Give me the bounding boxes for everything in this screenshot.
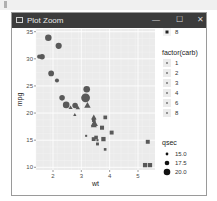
legend-key-square xyxy=(166,31,169,34)
legend-key-size xyxy=(166,153,169,156)
x-axis-title: wt xyxy=(91,180,99,187)
data-point-square xyxy=(148,163,152,167)
legend-label-carb: 8 xyxy=(175,110,179,116)
data-point-square xyxy=(103,116,107,120)
data-point-square xyxy=(96,139,98,141)
data-point-circle xyxy=(56,43,62,49)
legend-title-qsec: qsec xyxy=(162,139,177,147)
legend-key-dot xyxy=(166,102,168,104)
legend-key-dot xyxy=(166,92,168,94)
y-axis-title: mpg xyxy=(16,93,24,107)
legend-label-carb: 2 xyxy=(175,70,179,76)
x-tick-label: 2 xyxy=(51,173,55,179)
data-point-square xyxy=(85,135,87,137)
legend-label-carb: 3 xyxy=(175,80,179,86)
data-point-circle xyxy=(59,95,65,101)
legend-key-dot xyxy=(166,112,168,114)
legend-label-carb: 1 xyxy=(175,60,179,66)
legend-label-qsec: 15.0 xyxy=(175,151,187,157)
scatter-chart: 2345101520253035 wt mpg 8factor(carb)123… xyxy=(0,0,217,201)
y-tick-label: 10 xyxy=(26,164,33,170)
legend-label-carb: 6 xyxy=(175,100,179,106)
data-point-circle xyxy=(63,102,70,109)
y-tick-label: 35 xyxy=(26,29,33,35)
y-tick-label: 15 xyxy=(26,137,33,143)
data-point-square xyxy=(100,126,104,130)
data-point-square xyxy=(96,143,99,146)
legend-label-carb: 4 xyxy=(175,90,179,96)
data-point-square xyxy=(110,131,114,135)
data-point-circle xyxy=(55,78,59,82)
y-tick-label: 20 xyxy=(26,110,33,116)
data-point-square xyxy=(104,148,107,151)
x-tick-label: 4 xyxy=(108,173,112,179)
legend-title-carb: factor(carb) xyxy=(162,49,198,57)
data-point-circle xyxy=(48,71,54,77)
legend-key-dot xyxy=(166,72,168,74)
y-tick-label: 25 xyxy=(26,83,33,89)
y-tick-label: 30 xyxy=(26,56,33,62)
data-point-circle xyxy=(72,103,78,109)
data-point-circle xyxy=(81,93,90,102)
legend-key-size xyxy=(165,161,170,166)
x-tick-label: 3 xyxy=(80,173,84,179)
legend-key-dot xyxy=(166,62,168,64)
data-point-square xyxy=(143,163,147,167)
data-point-square xyxy=(101,137,105,141)
data-point-circle xyxy=(45,34,52,41)
legend-label-qsec: 17.5 xyxy=(175,160,187,166)
data-point-square xyxy=(92,137,96,141)
legend-label-cyl: 8 xyxy=(175,29,179,35)
legend: 8factor(carb)123468qsec15.017.520.0 xyxy=(162,28,198,175)
legend-label-qsec: 20.0 xyxy=(175,169,187,175)
legend-key-dot xyxy=(166,82,168,84)
data-point-square xyxy=(146,140,150,144)
legend-key-size xyxy=(164,169,171,176)
x-tick-label: 5 xyxy=(136,173,140,179)
data-point-circle xyxy=(37,55,41,59)
data-point-circle xyxy=(83,86,90,93)
